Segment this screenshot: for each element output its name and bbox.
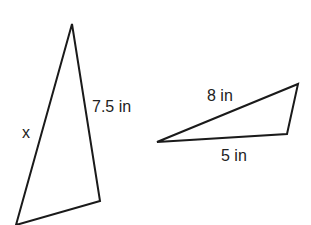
label-7-5-in: 7.5 in [92, 99, 131, 115]
label-5-in: 5 in [221, 148, 247, 164]
diagram-canvas [0, 0, 311, 225]
label-8-in: 8 in [207, 88, 233, 104]
label-x: x [22, 125, 30, 141]
